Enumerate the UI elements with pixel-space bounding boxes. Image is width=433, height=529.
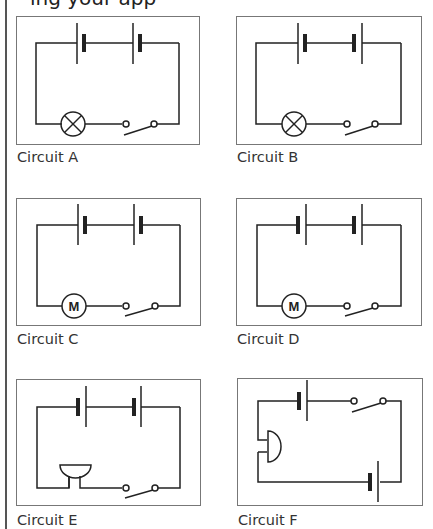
- circuit-f-diagram: [0, 0, 433, 529]
- circuit-f-label: Circuit F: [238, 512, 298, 528]
- circuit-f-svg: [0, 0, 433, 529]
